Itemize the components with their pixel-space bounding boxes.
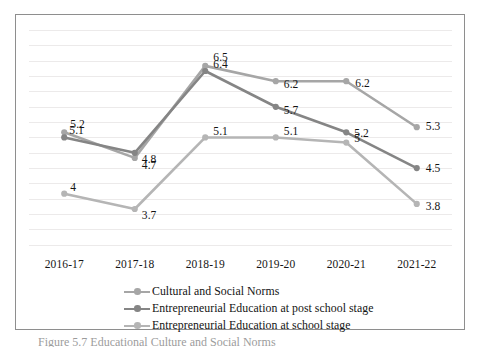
data-label: 6.4 bbox=[213, 59, 228, 71]
data-label: 5.7 bbox=[284, 105, 299, 117]
data-point-marker bbox=[414, 165, 420, 171]
data-label: 5.1 bbox=[213, 126, 228, 138]
legend-marker-icon bbox=[124, 304, 150, 314]
data-label: 4 bbox=[70, 182, 76, 194]
data-point-marker bbox=[273, 78, 279, 84]
series-3 bbox=[61, 134, 420, 212]
data-point-marker bbox=[343, 78, 349, 84]
data-label: 5.1 bbox=[284, 126, 299, 138]
data-point-marker bbox=[343, 129, 349, 135]
legend-dot bbox=[134, 322, 141, 329]
data-label: 5.3 bbox=[426, 121, 441, 133]
data-point-marker bbox=[273, 104, 279, 110]
data-point-marker bbox=[414, 124, 420, 130]
x-axis-label-2019-20: 2019-20 bbox=[241, 258, 312, 270]
figure-caption-text: Figure 5.7 Educational Culture and Socia… bbox=[38, 336, 458, 347]
data-point-marker bbox=[273, 134, 279, 140]
x-axis-label-2017-18: 2017-18 bbox=[100, 258, 171, 270]
data-label: 3.8 bbox=[426, 201, 441, 213]
data-point-marker bbox=[414, 201, 420, 207]
data-point-marker bbox=[61, 134, 67, 140]
legend-label: Entrepreneurial Education at post school… bbox=[152, 301, 373, 316]
figure-container: 5.24.76.56.26.25.35.14.86.45.75.24.543.7… bbox=[0, 0, 479, 347]
data-point-marker bbox=[132, 150, 138, 156]
data-point-marker bbox=[202, 134, 208, 140]
data-point-marker bbox=[132, 206, 138, 212]
data-point-marker bbox=[343, 139, 349, 145]
data-label: 5 bbox=[354, 133, 360, 145]
data-label: 3.7 bbox=[142, 210, 157, 222]
legend-item-1[interactable]: Cultural and Social Norms bbox=[16, 283, 466, 300]
data-label: 6.2 bbox=[355, 78, 370, 90]
x-axis-label-2018-19: 2018-19 bbox=[170, 258, 241, 270]
legend-marker-icon bbox=[124, 287, 150, 297]
figure-caption: Figure 5.7 Educational Culture and Socia… bbox=[38, 336, 458, 347]
data-label: 4.8 bbox=[142, 154, 157, 166]
chart-legend: Cultural and Social NormsEntrepreneurial… bbox=[16, 283, 466, 341]
data-point-marker bbox=[61, 191, 67, 197]
plot-area: 5.24.76.56.26.25.35.14.86.45.75.24.543.7… bbox=[29, 25, 452, 255]
x-axis-label-2021-22: 2021-22 bbox=[382, 258, 453, 270]
series-lines-svg bbox=[29, 25, 452, 255]
data-label: 6.2 bbox=[284, 79, 299, 91]
legend-label: Cultural and Social Norms bbox=[152, 284, 279, 299]
legend-item-3[interactable]: Entrepreneurial Education at school stag… bbox=[16, 317, 466, 334]
legend-label: Entrepreneurial Education at school stag… bbox=[152, 318, 351, 333]
data-label: 4.5 bbox=[426, 163, 441, 175]
x-axis-label-2020-21: 2020-21 bbox=[311, 258, 382, 270]
legend-marker-icon bbox=[124, 321, 150, 331]
data-point-marker bbox=[202, 68, 208, 74]
data-label: 5.1 bbox=[69, 125, 84, 137]
legend-dot bbox=[134, 288, 141, 295]
legend-dot bbox=[134, 305, 141, 312]
x-axis-tick-labels: 2016-172017-182018-192019-202020-212021-… bbox=[29, 258, 452, 278]
legend-item-2[interactable]: Entrepreneurial Education at post school… bbox=[16, 300, 466, 317]
x-axis-label-2016-17: 2016-17 bbox=[29, 258, 100, 270]
chart-frame: 5.24.76.56.26.25.35.14.86.45.75.24.543.7… bbox=[15, 14, 465, 330]
